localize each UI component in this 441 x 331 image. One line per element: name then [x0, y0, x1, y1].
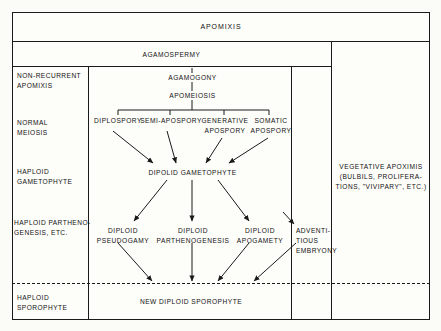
rule-center-column — [291, 66, 292, 320]
dashed-separator-sporophyte — [12, 283, 430, 284]
stage-label-haploid-parthenogenesis: HAPLOID PARTHENO- GENESIS, ETC. — [14, 218, 94, 238]
node-diploid-apogamety: DIPLOID APOGAMETY — [232, 226, 288, 246]
stage-label-haploid-gametophyte: HAPLOID GAMETOPHYTE — [17, 167, 91, 187]
node-diploid-parthenogenesis: DIPLOID PARTHENOGENESIS — [156, 226, 230, 246]
node-semi-apospory: SEMI-APOSPORY — [140, 116, 202, 126]
node-diploid-pseudogamy: DIPLOID PSEUDOGAMY — [92, 226, 154, 246]
stage-label-non-recurrent-apomixis: NON-RECURRENT APOMIXIS — [17, 71, 91, 91]
rule-below-title — [12, 41, 430, 42]
node-generative-apospory: GENERATIVE APOSPORY — [199, 116, 251, 136]
node-diplospory: DIPLOSPORY — [92, 116, 144, 126]
node-vegetative-apomixis: VEGETATIVE APOXIMIS (BULBILS, PROLIFERA-… — [334, 162, 428, 192]
node-new-diploid-sporophyte: NEW DIPLOID SPOROPHYTE — [92, 297, 290, 307]
node-agamogony: AGAMOGONY — [120, 73, 265, 83]
figure-title: APOMIXIS — [12, 22, 430, 33]
rule-left-column — [88, 66, 89, 320]
stage-label-normal-meiosis: NORMAL MEIOSIS — [17, 118, 91, 138]
node-diploid-gametophyte: DIPOLID GAMETOPHYTE — [120, 168, 265, 178]
rule-below-subtitle — [12, 66, 331, 67]
node-apomeiosis: APOMEIOSIS — [120, 91, 265, 101]
node-adventitious-embryony: ADVENTI- TIOUS EMBRYONY — [296, 226, 332, 256]
stage-label-haploid-sporophyte: HAPLOID SPOROPHYTE — [17, 293, 91, 313]
figure-subtitle: AGAMOSPERMY — [12, 50, 331, 60]
node-somatic-apospory: SOMATIC APOSPORY — [248, 116, 294, 136]
figure-canvas: APOMIXIS AGAMOSPERMY NON-RECURRENT APOMI… — [0, 0, 441, 331]
rule-adventitious-column — [331, 41, 332, 320]
